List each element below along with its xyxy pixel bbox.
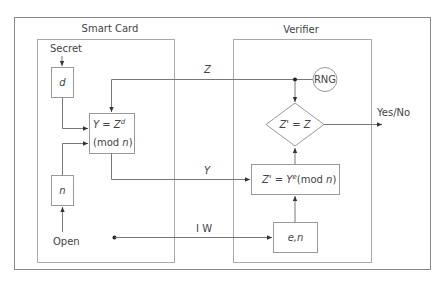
- n-label: n: [59, 185, 65, 196]
- z-junction-dot: [293, 78, 297, 82]
- z-label: Z: [203, 64, 212, 75]
- iw-label: I W: [196, 223, 212, 234]
- n-to-compute-arrow: [63, 144, 89, 176]
- d-to-compute-arrow: [63, 98, 89, 129]
- en-label: e,n: [288, 232, 304, 243]
- rng-label: RNG: [314, 74, 336, 85]
- y-response-arrow: [112, 154, 251, 180]
- open-label: Open: [53, 236, 80, 247]
- compute-z-prime-label: Z' = Ye(mod n): [261, 173, 336, 185]
- smart-card-verification-diagram: Smart Card Verifier Secret d n Open Y = …: [0, 0, 443, 288]
- z-challenge-arrow: [112, 80, 314, 113]
- compare-label: Z' = Z: [278, 119, 311, 130]
- secret-label: Secret: [50, 43, 82, 54]
- yes-no-label: Yes/No: [376, 107, 410, 118]
- verifier-title: Verifier: [283, 24, 320, 35]
- compute-y-line2: (mod n): [93, 137, 133, 148]
- d-label: d: [59, 77, 66, 88]
- y-label: Y: [204, 165, 211, 176]
- smart-card-title: Smart Card: [82, 23, 139, 34]
